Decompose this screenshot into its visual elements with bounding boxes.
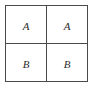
- cell-label-row2-col2: B: [64, 59, 71, 70]
- figure-canvas: A A B B: [0, 0, 95, 88]
- table-row: A A: [6, 6, 88, 44]
- grid-cell-row1-col2: A: [47, 6, 88, 44]
- cell-label-row1-col1: A: [23, 21, 30, 32]
- grid-cell-row2-col1: B: [6, 44, 47, 82]
- cell-label-row1-col2: A: [64, 21, 71, 32]
- grid-body: A A B B: [6, 6, 88, 82]
- table-row: B B: [6, 44, 88, 82]
- cell-label-row2-col1: B: [23, 59, 30, 70]
- two-by-two-grid: A A B B: [5, 5, 88, 82]
- grid-cell-row1-col1: A: [6, 6, 47, 44]
- grid-cell-row2-col2: B: [47, 44, 88, 82]
